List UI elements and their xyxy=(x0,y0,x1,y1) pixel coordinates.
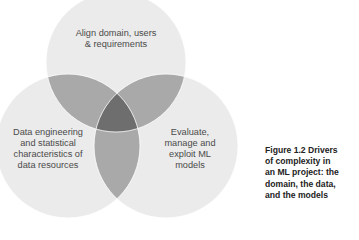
label-domain: Align domain, users & requirements xyxy=(58,28,174,50)
figure-caption: Figure 1.2 Drivers of complexity in an M… xyxy=(265,145,359,201)
label-data: Data engineering and statistical charact… xyxy=(0,127,96,171)
label-models: Evaluate, manage and exploit ML models xyxy=(150,127,230,171)
